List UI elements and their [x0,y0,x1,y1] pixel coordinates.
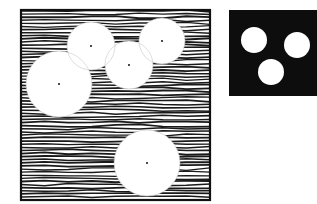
white-circle [284,32,310,58]
white-circle [258,59,284,85]
white-circle [241,27,267,53]
black-field-figure [0,0,317,204]
